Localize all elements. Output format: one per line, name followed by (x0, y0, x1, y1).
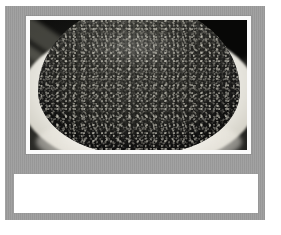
caviar-mound (38, 20, 240, 150)
caption-text (14, 174, 258, 184)
photo-mat (26, 16, 251, 154)
caviar-photo[interactable] (30, 20, 247, 150)
caption-box[interactable] (14, 174, 258, 213)
caviar-highlight (74, 28, 191, 67)
image-panel (5, 6, 265, 220)
